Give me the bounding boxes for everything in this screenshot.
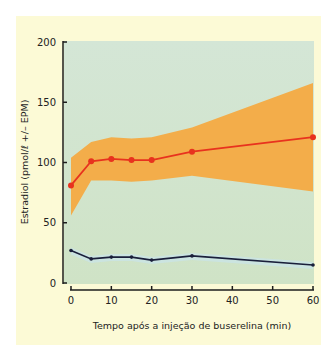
chart: 0501001502000102030405060 Tempo após a i… xyxy=(0,0,335,363)
x-tick-label: 60 xyxy=(307,295,320,306)
y-axis-title: Estradiol (pmol/ℓ +/– EPM) xyxy=(19,100,30,225)
data-point xyxy=(149,157,155,163)
data-point xyxy=(68,182,74,188)
y-tick-label: 200 xyxy=(37,37,56,48)
x-tick-label: 40 xyxy=(226,295,239,306)
x-tick-label: 10 xyxy=(105,295,118,306)
data-point xyxy=(311,263,315,267)
data-point xyxy=(88,158,94,164)
x-tick-label: 0 xyxy=(68,295,74,306)
data-point xyxy=(190,254,194,258)
x-tick-label: 50 xyxy=(266,295,279,306)
x-axis-title: Tempo após a injeção de buserelina (min) xyxy=(92,320,291,331)
data-point xyxy=(310,134,316,140)
data-point xyxy=(110,255,114,259)
data-point xyxy=(89,257,93,261)
x-tick-label: 20 xyxy=(145,295,158,306)
data-point xyxy=(150,258,154,262)
y-tick-label: 150 xyxy=(37,97,56,108)
data-point xyxy=(108,156,114,162)
y-tick-label: 50 xyxy=(43,217,56,228)
x-tick-label: 30 xyxy=(186,295,199,306)
y-tick-label: 0 xyxy=(50,278,56,289)
data-point xyxy=(69,249,73,253)
data-point xyxy=(130,255,134,259)
data-point xyxy=(129,157,135,163)
data-point xyxy=(189,149,195,155)
y-tick-label: 100 xyxy=(37,157,56,168)
